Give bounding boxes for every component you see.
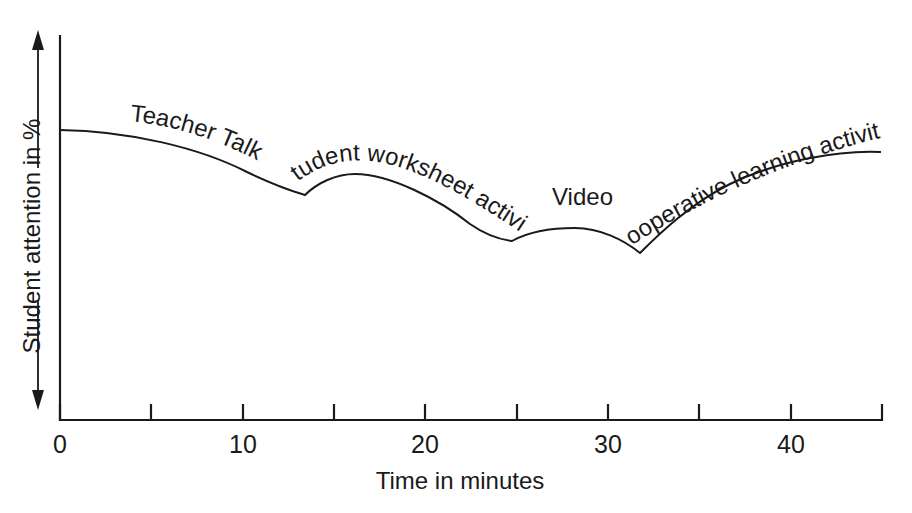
student-attention-line-chart: Student attention in % 0 10 <box>0 0 912 513</box>
x-axis-group: 0 10 20 30 40 Time in minutes <box>53 404 882 494</box>
curve-label-teacher-talk: Teacher Talk <box>129 99 268 165</box>
x-axis-ticks <box>60 404 882 420</box>
x-tick-label-10: 10 <box>229 430 257 458</box>
x-tick-label-40: 40 <box>777 430 805 458</box>
x-axis-title: Time in minutes <box>376 467 545 494</box>
x-tick-label-30: 30 <box>594 430 622 458</box>
x-tick-label-0: 0 <box>53 430 67 458</box>
curve-label-video: Video <box>552 183 613 210</box>
x-axis-tick-labels: 0 10 20 30 40 <box>53 430 805 458</box>
curve-label-student-worksheet-activity: Student worksheet activity <box>0 0 532 236</box>
chart-container: Student attention in % 0 10 <box>0 0 912 513</box>
x-tick-label-20: 20 <box>411 430 439 458</box>
y-axis-group: Student attention in % <box>18 30 60 420</box>
curve-labels-group: Teacher Talk Student worksheet activity … <box>0 0 882 250</box>
y-axis-title: Student attention in % <box>18 119 45 354</box>
